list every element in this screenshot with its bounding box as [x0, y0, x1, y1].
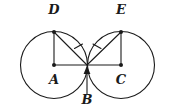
vertex-label-C: C	[116, 72, 127, 87]
vertex-dot-C	[119, 63, 123, 67]
pointer-to-B-head	[84, 66, 91, 75]
vertex-label-D: D	[47, 2, 60, 17]
vertex-dot-E	[119, 30, 123, 34]
vertex-dot-D	[52, 30, 56, 34]
tick-on-EB	[93, 44, 101, 49]
vertex-label-E: E	[115, 2, 127, 17]
vertex-label-A: A	[47, 72, 59, 87]
vertex-label-B: B	[81, 92, 93, 106]
geometry-figure: D E A C B	[0, 0, 174, 106]
geometry-canvas: D E A C B	[0, 0, 174, 106]
vertex-dot-A	[52, 63, 56, 67]
segment-DB	[54, 32, 87, 65]
